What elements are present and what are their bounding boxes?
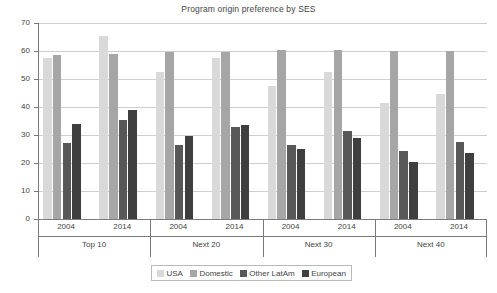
legend-swatch-icon bbox=[190, 270, 197, 277]
bar-other-latam-next-40-2014 bbox=[456, 142, 465, 219]
year-tick-label-next-30-2014: 2014 bbox=[319, 222, 375, 231]
y-tick-50 bbox=[34, 79, 38, 80]
y-tick-70 bbox=[34, 23, 38, 24]
y-axis-label-0: 0 bbox=[2, 214, 30, 223]
y-axis-label-10: 10 bbox=[2, 186, 30, 195]
legend-label: Domestic bbox=[199, 269, 232, 278]
legend-swatch-icon bbox=[157, 270, 164, 277]
bar-european-top-10-2004 bbox=[72, 124, 81, 219]
bar-domestic-top-10-2014 bbox=[109, 54, 118, 219]
y-tick-60 bbox=[34, 51, 38, 52]
y-axis-label-40: 40 bbox=[2, 102, 30, 111]
y-axis-label-60: 60 bbox=[2, 46, 30, 55]
year-tick-label-next-20-2014: 2014 bbox=[206, 222, 262, 231]
y-tick-10 bbox=[34, 191, 38, 192]
year-tick-label-next-40-2014: 2014 bbox=[431, 222, 487, 231]
year-tick-label-next-20-2004: 2004 bbox=[150, 222, 206, 231]
group-label-top-10: Top 10 bbox=[38, 240, 150, 249]
group-label-next-30: Next 30 bbox=[263, 240, 375, 249]
bar-other-latam-next-30-2014 bbox=[343, 131, 352, 219]
bar-other-latam-next-30-2004 bbox=[287, 145, 296, 219]
bar-domestic-next-20-2014 bbox=[221, 52, 230, 219]
legend-label: European bbox=[311, 269, 346, 278]
bar-domestic-next-30-2004 bbox=[277, 50, 286, 219]
bar-european-next-20-2014 bbox=[241, 125, 250, 219]
bar-usa-top-10-2004 bbox=[43, 58, 52, 219]
bar-european-next-30-2004 bbox=[297, 149, 306, 219]
legend-item-domestic[interactable]: Domestic bbox=[190, 269, 233, 278]
group-label-next-20: Next 20 bbox=[150, 240, 262, 249]
year-row-separator-2 bbox=[263, 236, 375, 237]
y-axis-line bbox=[38, 23, 39, 220]
year-row-separator-1 bbox=[150, 236, 262, 237]
year-row-separator-3 bbox=[375, 236, 487, 237]
plot-area bbox=[38, 23, 487, 219]
bar-domestic-next-20-2004 bbox=[165, 52, 174, 219]
group-label-next-40: Next 40 bbox=[375, 240, 487, 249]
bar-european-next-40-2004 bbox=[409, 162, 418, 219]
year-tick-label-next-30-2004: 2004 bbox=[263, 222, 319, 231]
bar-usa-next-30-2014 bbox=[324, 72, 333, 219]
bar-european-top-10-2014 bbox=[128, 110, 137, 219]
chart-title: Program origin preference by SES bbox=[0, 4, 497, 14]
bar-other-latam-top-10-2004 bbox=[63, 143, 72, 219]
legend-label: USA bbox=[167, 269, 183, 278]
bar-chart: Program origin preference by SES 0102030… bbox=[0, 0, 497, 293]
bar-usa-next-20-2004 bbox=[156, 72, 165, 219]
legend-item-european[interactable]: European bbox=[302, 269, 346, 278]
bar-usa-next-20-2014 bbox=[212, 58, 221, 219]
legend-swatch-icon bbox=[302, 270, 309, 277]
bar-usa-next-40-2004 bbox=[380, 103, 389, 219]
y-axis-label-30: 30 bbox=[2, 130, 30, 139]
bar-usa-next-30-2004 bbox=[268, 86, 277, 219]
bar-other-latam-next-20-2004 bbox=[175, 145, 184, 219]
category-axis: 20042014Top 1020042014Next 2020042014Nex… bbox=[38, 220, 487, 258]
bar-domestic-next-40-2014 bbox=[446, 51, 455, 219]
year-tick-label-top-10-2014: 2014 bbox=[94, 222, 150, 231]
bar-domestic-next-40-2004 bbox=[390, 51, 399, 219]
legend-item-other-latam[interactable]: Other LatAm bbox=[240, 269, 295, 278]
legend-item-usa[interactable]: USA bbox=[157, 269, 183, 278]
y-tick-30 bbox=[34, 135, 38, 136]
gridline-70 bbox=[38, 23, 487, 24]
chart-legend: USADomesticOther LatAmEuropean bbox=[151, 265, 352, 281]
bar-european-next-20-2004 bbox=[185, 136, 194, 219]
y-axis-label-50: 50 bbox=[2, 74, 30, 83]
legend-swatch-icon bbox=[240, 270, 247, 277]
bar-other-latam-next-40-2004 bbox=[399, 151, 408, 219]
bar-usa-top-10-2014 bbox=[99, 36, 108, 219]
y-axis-label-20: 20 bbox=[2, 158, 30, 167]
bar-domestic-next-30-2014 bbox=[334, 50, 343, 219]
y-axis-label-70: 70 bbox=[2, 18, 30, 27]
legend-label: Other LatAm bbox=[249, 269, 294, 278]
bar-usa-next-40-2014 bbox=[436, 94, 445, 219]
bar-other-latam-top-10-2014 bbox=[119, 120, 128, 219]
year-row-separator-0 bbox=[38, 236, 150, 237]
y-tick-40 bbox=[34, 107, 38, 108]
bar-european-next-40-2014 bbox=[465, 153, 474, 219]
y-tick-20 bbox=[34, 163, 38, 164]
year-tick-label-top-10-2004: 2004 bbox=[38, 222, 94, 231]
year-tick-label-next-40-2004: 2004 bbox=[375, 222, 431, 231]
bar-other-latam-next-20-2014 bbox=[231, 127, 240, 219]
bar-domestic-top-10-2004 bbox=[53, 55, 62, 219]
bar-european-next-30-2014 bbox=[353, 138, 362, 219]
